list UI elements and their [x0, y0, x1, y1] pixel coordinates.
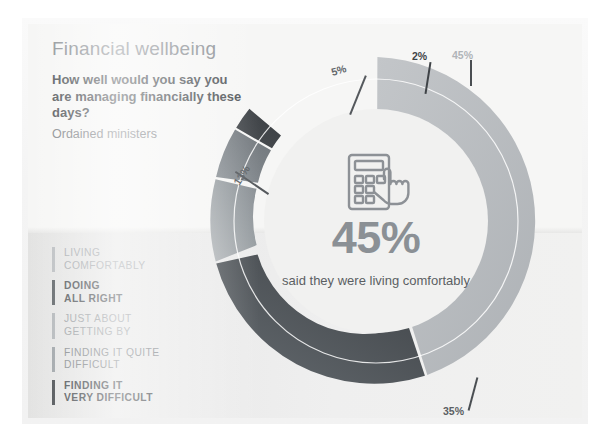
leader-line-45 — [470, 60, 472, 86]
card-inner-surface: Financial wellbeing How well would you s… — [28, 24, 582, 418]
page-title: Financial wellbeing — [52, 38, 216, 60]
legend-item[interactable]: JUST ABOUT GETTING BY — [52, 313, 227, 338]
callout-45: 45% — [452, 49, 473, 61]
legend-item[interactable]: FINDING IT VERY DIFFICULT — [52, 380, 227, 405]
center-caption: said they were living comfortably — [206, 272, 546, 289]
legend-swatch-icon — [52, 380, 55, 405]
legend-swatch-icon — [52, 313, 55, 338]
chart-legend: LIVING COMFORTABLY DOING ALL RIGHT JUST … — [52, 247, 227, 413]
legend-item-label: JUST ABOUT GETTING BY — [64, 313, 132, 338]
infographic-card: Financial wellbeing How well would you s… — [22, 18, 588, 424]
legend-item[interactable]: FINDING IT QUITE DIFFICULT — [52, 347, 227, 372]
infographic-screen: Financial wellbeing How well would you s… — [0, 0, 610, 444]
calculator-hand-icon — [340, 151, 412, 217]
legend-item[interactable]: LIVING COMFORTABLY — [52, 247, 227, 272]
callout-35: 35% — [443, 405, 464, 417]
center-percentage: 45% — [206, 215, 546, 260]
donut-chart: 45% said they were living comfortably — [206, 24, 546, 418]
legend-item[interactable]: DOING ALL RIGHT — [52, 280, 227, 305]
legend-item-label: DOING ALL RIGHT — [64, 280, 123, 305]
callout-2: 2% — [412, 50, 427, 62]
legend-swatch-icon — [52, 247, 55, 272]
survey-subject: Ordained ministers — [52, 127, 157, 141]
legend-swatch-icon — [52, 280, 55, 305]
legend-item-label: LIVING COMFORTABLY — [64, 247, 146, 272]
legend-item-label: FINDING IT VERY DIFFICULT — [64, 380, 153, 405]
legend-swatch-icon — [52, 347, 55, 372]
legend-item-label: FINDING IT QUITE DIFFICULT — [64, 347, 160, 372]
